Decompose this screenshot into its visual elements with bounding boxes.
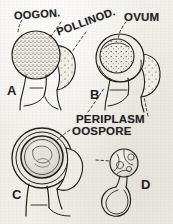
panel-letter-b: B (90, 88, 99, 101)
label-oospore: OOSPORE (72, 126, 132, 138)
panel-letter-c: C (12, 188, 21, 201)
panel-letter-a: A (7, 84, 16, 97)
label-ovum: OVUM (124, 12, 159, 24)
panel-b-drawing (96, 34, 160, 112)
panel-c-drawing (12, 128, 83, 216)
botanical-figure: OOGON. POLLINOD. OVUM PERIPLASM OOSPORE … (0, 0, 173, 224)
leader-oogonium (18, 20, 22, 34)
panel-a-drawing (12, 31, 75, 110)
leader-pollinodium-a (72, 32, 86, 52)
label-periplasm: PERIPLASM (76, 114, 145, 126)
panel-d-drawing (102, 149, 138, 216)
leader-zoospores (96, 160, 110, 161)
panel-letter-d: D (141, 178, 150, 191)
